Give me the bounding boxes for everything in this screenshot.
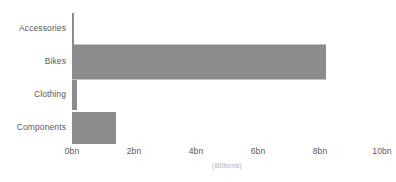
category-axis-labels: Accessories Bikes Clothing Components bbox=[0, 12, 66, 144]
bar-components[interactable] bbox=[72, 112, 116, 144]
x-tick-4: 8bn bbox=[313, 146, 327, 156]
x-tick-3: 6bn bbox=[251, 146, 265, 156]
bar-row-clothing bbox=[72, 78, 382, 111]
x-tick-0: 0bn bbox=[65, 146, 79, 156]
category-label-bikes: Bikes bbox=[0, 45, 66, 78]
bar-row-components bbox=[72, 111, 382, 144]
category-label-components: Components bbox=[0, 111, 66, 144]
bar-row-accessories bbox=[72, 12, 382, 45]
x-tick-2: 4bn bbox=[189, 146, 203, 156]
bar-accessories[interactable] bbox=[72, 13, 74, 45]
x-tick-1: 2bn bbox=[127, 146, 141, 156]
x-axis-title: (Billions) bbox=[72, 161, 382, 170]
bar-row-bikes bbox=[72, 45, 382, 78]
category-label-accessories: Accessories bbox=[0, 12, 66, 45]
bar-clothing[interactable] bbox=[72, 80, 77, 110]
category-label-clothing: Clothing bbox=[0, 78, 66, 111]
plot-area bbox=[72, 12, 382, 144]
x-axis: 0bn 2bn 4bn 6bn 8bn 10bn bbox=[72, 146, 382, 160]
bar-bikes[interactable] bbox=[72, 44, 326, 79]
x-tick-5: 10bn bbox=[372, 146, 391, 156]
bar-chart: Accessories Bikes Clothing Components 0b… bbox=[0, 0, 396, 182]
